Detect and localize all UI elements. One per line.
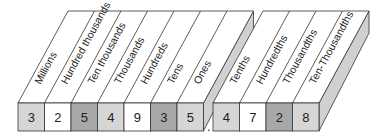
- digit-value: 2: [54, 110, 61, 125]
- digit-value: 5: [81, 110, 88, 125]
- digit-value: 4: [223, 110, 230, 125]
- digit-value: 9: [134, 110, 141, 125]
- digit-value: 5: [187, 110, 194, 125]
- digit-value: 3: [28, 110, 35, 125]
- digit-value: 4: [107, 110, 114, 125]
- digit-value: 7: [249, 110, 256, 125]
- decimal-point: .: [207, 119, 211, 134]
- place-value-diagram: 3Millions2Hundred thousands5Ten thousand…: [0, 0, 390, 137]
- place-value-chart: 3Millions2Hundred thousands5Ten thousand…: [0, 0, 390, 137]
- digit-value: 8: [302, 110, 309, 125]
- digit-value: 3: [160, 110, 167, 125]
- digit-value: 2: [276, 110, 283, 125]
